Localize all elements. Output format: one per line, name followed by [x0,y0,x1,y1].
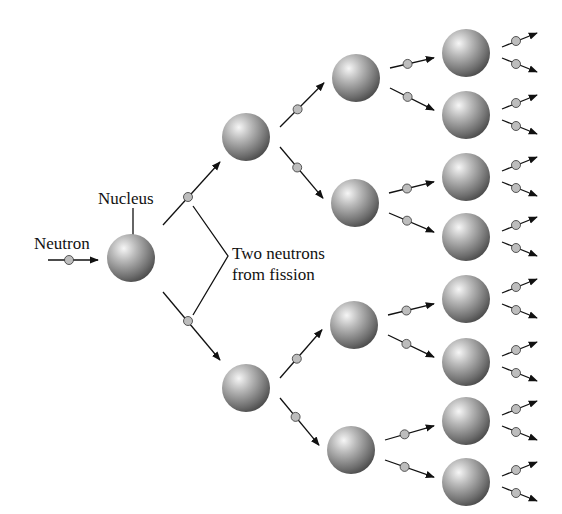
arrow-line [385,426,434,440]
arrow-line [163,292,220,360]
neutron-icon [403,59,412,68]
nucleus-sphere-icon [327,426,375,474]
neutron-icon [400,430,409,439]
arrow-line [280,398,319,445]
neutron-icon [512,405,521,414]
arrow-line [388,335,434,357]
nucleus-sphere-icon [222,364,270,412]
nucleus-label: Nucleus [98,189,154,208]
neutron-icon [512,346,521,355]
nucleus-sphere-icon [332,54,380,102]
neutron-icon [293,105,302,114]
nucleus-sphere-icon [442,91,490,139]
neutron-icon [184,193,193,202]
nucleus-sphere-icon [442,213,490,261]
arrow-line [390,88,434,110]
neutron-icon [512,244,521,253]
neutron-icon [512,122,521,131]
neutron-icon [512,184,521,193]
neutron-icon [512,489,521,498]
neutron-icon [512,161,521,170]
arrow-line [280,147,323,198]
neutron-icon [402,339,411,348]
neutron-icon [512,369,521,378]
neutron-icon [512,37,521,46]
nucleus-sphere-icon [107,234,155,282]
neutron-icon [512,60,521,69]
neutron-label: Neutron [34,234,90,253]
neutron-icon [512,99,521,108]
fission-bracket [193,206,228,315]
nucleus-sphere-icon [331,179,379,227]
nucleus-sphere-icon [222,113,270,161]
neutron-icon [400,462,409,471]
neutron-icon [403,92,412,101]
neutron-icon [512,428,521,437]
neutron-icon [403,184,412,193]
arrow-line [280,330,322,378]
fission-label-line1: Two neutrons [232,244,325,263]
nucleus-sphere-icon [442,397,490,445]
neutron-icon [512,221,521,230]
neutron-icon [65,256,74,265]
nucleus-sphere-icon [442,29,490,77]
neutron-icon [291,412,300,421]
neutron-icon [512,466,521,475]
arrow-line [385,460,434,477]
fission-chain-diagram: Neutron Nucleus Two neutrons from fissio… [0,0,562,514]
neutron-icon [292,354,301,363]
nucleus-sphere-icon [442,153,490,201]
fission-label-line2: from fission [232,265,315,284]
neutron-icon [512,306,521,315]
arrow-line [280,83,324,127]
neutron-icon [293,163,302,172]
neutron-icon [184,317,193,326]
nucleus-sphere-icon [442,458,490,506]
nucleus-sphere-icon [330,301,378,349]
neutron-icon [512,283,521,292]
arrow-line [163,162,220,225]
neutron-icon [403,216,412,225]
nucleus-sphere-icon [442,275,490,323]
neutron-icon [402,306,411,315]
nucleus-sphere-icon [442,338,490,386]
